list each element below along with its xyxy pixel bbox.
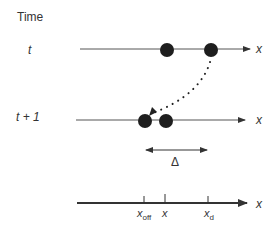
row-t1-axis-label: x (255, 113, 263, 127)
particle-1-t (160, 43, 174, 57)
delta-label: Δ (171, 155, 179, 169)
row-t1-label: t + 1 (16, 110, 40, 124)
particle-2-t (204, 43, 218, 57)
diagram-canvas: Time t x t + 1 x Δ x xoff x xd (0, 0, 276, 230)
position-axis-label: x (255, 197, 263, 211)
row-t-axis-label: x (255, 42, 263, 56)
jump-arrowhead (149, 107, 157, 116)
particle-2-t1 (159, 114, 173, 128)
tick-label-x-d: xd (203, 207, 214, 222)
particle-1-t1 (138, 114, 152, 128)
tick-label-x: x (161, 207, 168, 219)
tick-label-x-off: xoff (136, 207, 152, 222)
row-t-label: t (28, 43, 32, 57)
jump-arrow (153, 62, 210, 113)
time-label: Time (17, 10, 44, 24)
